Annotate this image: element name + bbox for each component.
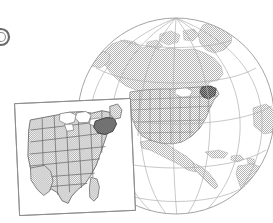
landmass-south-america — [236, 164, 273, 204]
landmass-caribbean-3 — [247, 158, 255, 164]
figure-bullet-marker — [0, 29, 9, 45]
inset-map — [15, 98, 136, 215]
figure-canvas — [0, 0, 273, 223]
figure-root: Globe showing North America with inset m… — [0, 0, 273, 223]
